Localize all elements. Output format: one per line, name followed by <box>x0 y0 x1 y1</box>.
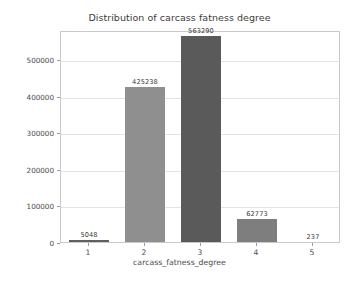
x-axis-tick-mark <box>312 243 313 246</box>
bar-value-label: 237 <box>283 233 343 241</box>
x-axis-tick-mark <box>144 243 145 246</box>
x-axis-tick-label: 3 <box>180 248 220 257</box>
y-axis-tick-label: 400000 <box>8 93 54 102</box>
bar[interactable] <box>293 241 332 242</box>
chart-title: Distribution of carcass fatness degree <box>0 12 359 23</box>
x-axis-tick-label: 2 <box>124 248 164 257</box>
x-axis-tick-mark <box>200 243 201 246</box>
y-axis-tick-label: 200000 <box>8 166 54 175</box>
bar[interactable] <box>69 240 108 242</box>
x-axis-tick-mark <box>88 243 89 246</box>
y-axis-tick-label: 500000 <box>8 56 54 65</box>
bar-value-label: 62773 <box>227 210 287 218</box>
x-axis-tick-mark <box>256 243 257 246</box>
y-axis-tick-label: 300000 <box>8 129 54 138</box>
y-axis-tick-label: 0 <box>8 239 54 248</box>
bar[interactable] <box>181 36 220 242</box>
bar-value-label: 563290 <box>171 27 231 35</box>
x-axis-tick-label: 1 <box>68 248 108 257</box>
bar[interactable] <box>237 219 276 242</box>
y-axis-tick-label: 100000 <box>8 202 54 211</box>
bar-value-label: 5048 <box>59 231 119 239</box>
y-axis-tick-mark <box>57 243 60 244</box>
x-axis-label: carcass_fatness_degree <box>0 258 359 267</box>
x-axis-tick-label: 5 <box>292 248 332 257</box>
chart-figure: Distribution of carcass fatness degree c… <box>0 0 359 281</box>
plot-area: 504842523856329062773237 <box>60 31 340 243</box>
bar[interactable] <box>125 87 164 242</box>
x-axis-tick-label: 4 <box>236 248 276 257</box>
bar-value-label: 425238 <box>115 78 175 86</box>
